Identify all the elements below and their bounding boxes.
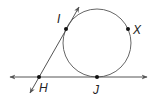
point-label-i: I: [57, 12, 61, 26]
point-x: [126, 27, 130, 31]
geometry-diagram: IXHJ: [0, 0, 156, 98]
point-i: [64, 27, 68, 31]
point-j: [95, 75, 99, 79]
point-h: [37, 75, 41, 79]
slanted-tangent-line: [30, 7, 79, 93]
point-label-h: H: [39, 81, 48, 95]
point-label-j: J: [92, 83, 100, 97]
point-label-x: X: [132, 23, 142, 37]
circle: [63, 9, 131, 77]
